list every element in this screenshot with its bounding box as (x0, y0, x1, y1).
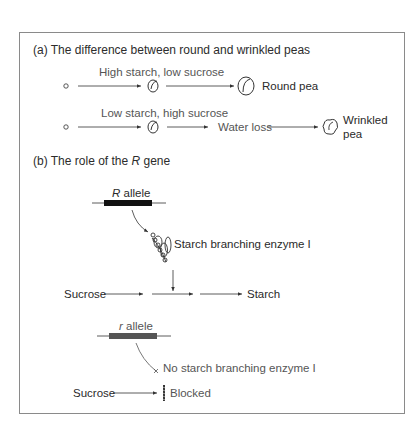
developing-pea-icon (148, 80, 158, 92)
wrinkled-pea-icon (323, 119, 338, 134)
round-pea-pathway (64, 77, 254, 95)
dominant-allele-bar (104, 200, 152, 206)
starch-label: Starch (247, 288, 280, 301)
enzyme-absent-label: No starch branching enzyme I (163, 362, 316, 375)
section-b-title-suffix: gene (140, 154, 170, 168)
round-condition-label: High starch, low sucrose (99, 66, 224, 79)
section-b-title-prefix: (b) The role of the (33, 154, 132, 168)
seed-small-icon (64, 125, 68, 129)
recessive-allele-bar (109, 333, 157, 339)
enzyme-icon (151, 233, 171, 262)
dominant-allele-word: allele (120, 187, 150, 199)
blocked-label: Blocked (170, 387, 211, 400)
water-loss-label: Water loss (218, 121, 272, 134)
recessive-allele-label: r allele (119, 320, 153, 333)
wrinkled-pea-label-line2: pea (343, 128, 362, 141)
blocked-bar-icon (162, 385, 166, 401)
developing-pea-icon (148, 121, 158, 133)
section-a-title: (a) The difference between round and wri… (33, 44, 310, 57)
section-b-title-gene: R (132, 154, 141, 168)
cross-icon (154, 369, 158, 373)
seed-small-icon (64, 84, 68, 88)
recessive-sucrose-label: Sucrose (73, 387, 115, 400)
enzyme-present-label: Starch branching enzyme I (174, 238, 311, 251)
wrinkled-condition-label: Low starch, high sucrose (101, 107, 228, 120)
dominant-allele-label: R allele (112, 187, 150, 200)
wrinkled-pea-pathway (64, 119, 338, 134)
dominant-sucrose-label: Sucrose (64, 288, 106, 301)
wrinkled-pea-label-line1: Wrinkled (343, 114, 388, 127)
recessive-allele-word: allele (123, 320, 153, 332)
section-b-title: (b) The role of the R gene (33, 155, 170, 168)
round-pea-icon (238, 77, 254, 95)
round-pea-label: Round pea (262, 80, 318, 93)
